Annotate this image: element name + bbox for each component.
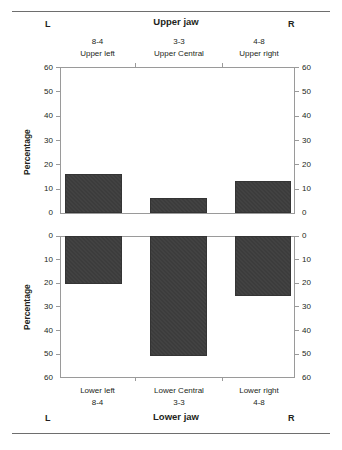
bottom-divider-rule: [12, 433, 330, 434]
lower-gridtick-40: [56, 330, 60, 331]
upper-gridtick-30-r: [295, 140, 299, 141]
lower-gridtick-10: [56, 259, 60, 260]
upper-group-1-label: Upper Central: [136, 48, 222, 59]
lower-right-marker: R: [288, 413, 295, 423]
lower-group-1-code: 3-3: [136, 397, 222, 408]
upper-ytick-10-right: 10: [302, 184, 322, 193]
lower-ytick-10-left: 10: [33, 255, 53, 264]
lower-ytick-30-right: 30: [302, 302, 322, 311]
lower-ytick-50-left: 50: [33, 349, 53, 358]
lower-ytick-60-left: 60: [33, 373, 53, 382]
upper-gridtick-40-r: [295, 116, 299, 117]
upper-bar-4-8: [235, 181, 291, 213]
lower-gridtick-50-r: [295, 354, 299, 355]
upper-ytick-40-left: 40: [33, 111, 53, 120]
upper-bar-8-4: [65, 174, 122, 213]
upper-y-axis-label: Percentage: [22, 129, 32, 175]
upper-left-marker: L: [45, 19, 51, 29]
upper-ytick-30-right: 30: [302, 136, 322, 145]
lower-gridtick-50: [56, 354, 60, 355]
upper-jaw-title: Upper jaw: [121, 16, 231, 27]
lower-group-0-label: Lower left: [60, 385, 135, 396]
upper-ytick-60-left: 60: [33, 63, 53, 72]
upper-ytick-60-right: 60: [302, 63, 322, 72]
lower-axis-right: [294, 236, 295, 378]
lower-group-2-label: Lower right: [223, 385, 295, 396]
upper-gridtick-10: [56, 189, 60, 190]
top-divider-rule: [12, 11, 330, 12]
upper-ytick-50-right: 50: [302, 87, 322, 96]
upper-gridtick-60: [56, 67, 60, 68]
lower-ytick-50-right: 50: [302, 349, 322, 358]
lower-ytick-30-left: 30: [33, 302, 53, 311]
upper-ytick-0-left: 0: [33, 208, 53, 217]
upper-group-2-label: Upper right: [223, 48, 295, 59]
upper-group-2-code: 4-8: [223, 36, 295, 47]
upper-bar-3-3: [150, 198, 207, 213]
lower-bar-8-4: [65, 236, 122, 284]
upper-ytick-20-right: 20: [302, 160, 322, 169]
lower-ytick-0-left: 0: [33, 231, 53, 240]
lower-gridtick-20-r: [295, 283, 299, 284]
upper-category-separator-1: [135, 63, 136, 67]
lower-gridtick-30-r: [295, 306, 299, 307]
upper-category-separator-2: [222, 63, 223, 67]
upper-ytick-10-left: 10: [33, 184, 53, 193]
lower-ytick-40-right: 40: [302, 326, 322, 335]
lower-group-2-code: 4-8: [223, 397, 295, 408]
upper-ytick-40-right: 40: [302, 111, 322, 120]
lower-group-0-code: 8-4: [60, 397, 135, 408]
lower-left-marker: L: [45, 413, 51, 423]
lower-gridtick-0: [56, 236, 60, 237]
lower-ytick-10-right: 10: [302, 255, 322, 264]
upper-axis-top: [60, 67, 295, 68]
chart-figure: L R Upper jaw 8-4 Upper left 3-3 Upper C…: [0, 0, 342, 450]
upper-axis-left: [60, 67, 61, 214]
lower-gridtick-40-r: [295, 330, 299, 331]
upper-gridtick-30: [56, 140, 60, 141]
upper-gridtick-10-r: [295, 189, 299, 190]
upper-group-0-label: Upper left: [60, 48, 135, 59]
lower-ytick-60-right: 60: [302, 373, 322, 382]
lower-gridtick-30: [56, 306, 60, 307]
lower-axis-left: [60, 236, 61, 378]
upper-ytick-30-left: 30: [33, 136, 53, 145]
lower-category-separator-2: [222, 377, 223, 381]
lower-bar-4-8: [235, 236, 291, 296]
upper-group-1-code: 3-3: [136, 36, 222, 47]
upper-gridtick-20-r: [295, 164, 299, 165]
upper-gridtick-50-r: [295, 91, 299, 92]
upper-gridtick-20: [56, 164, 60, 165]
upper-ytick-0-right: 0: [302, 208, 322, 217]
lower-jaw-title: Lower jaw: [121, 411, 231, 422]
lower-category-separator-1: [135, 377, 136, 381]
upper-right-marker: R: [288, 19, 295, 29]
upper-group-0-code: 8-4: [60, 36, 135, 47]
lower-gridtick-20: [56, 283, 60, 284]
upper-gridtick-50: [56, 91, 60, 92]
lower-group-1-label: Lower Central: [136, 385, 222, 396]
lower-gridtick-10-r: [295, 259, 299, 260]
lower-ytick-40-left: 40: [33, 326, 53, 335]
lower-bar-3-3: [150, 236, 207, 356]
upper-axis-baseline: [60, 213, 295, 214]
lower-ytick-20-right: 20: [302, 278, 322, 287]
lower-ytick-20-left: 20: [33, 278, 53, 287]
upper-gridtick-40: [56, 116, 60, 117]
lower-axis-bottom: [60, 377, 295, 378]
lower-gridtick-0-r: [295, 236, 299, 237]
lower-ytick-0-right: 0: [302, 231, 322, 240]
lower-y-axis-label: Percentage: [22, 284, 32, 330]
upper-ytick-20-left: 20: [33, 160, 53, 169]
upper-gridtick-60-r: [295, 67, 299, 68]
upper-ytick-50-left: 50: [33, 87, 53, 96]
